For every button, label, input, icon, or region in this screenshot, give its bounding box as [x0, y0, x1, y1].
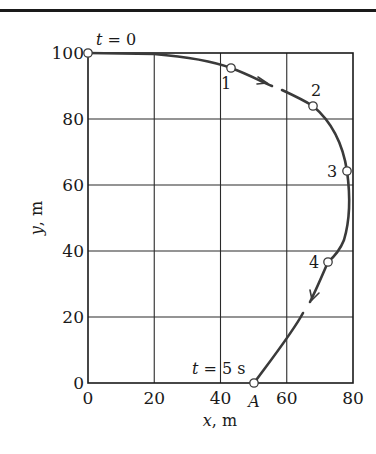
label-point-1: 1 [221, 74, 231, 93]
x-axis-title: x, m [203, 411, 237, 430]
point-start [84, 49, 92, 57]
trajectory-chart: 0 20 40 60 80 100 0 20 40 60 80 x, m y, … [0, 0, 376, 454]
label-point-A: A [246, 392, 260, 411]
y-tick-labels: 0 20 40 60 80 100 [52, 43, 84, 393]
point-A [250, 379, 258, 387]
y-axis-title: y, m [27, 201, 46, 236]
x-tick-60: 60 [276, 388, 298, 408]
point-1 [227, 64, 235, 72]
x-tick-40: 40 [210, 388, 232, 408]
x-tick-80: 80 [342, 388, 364, 408]
label-point-3: 3 [327, 162, 337, 181]
x-tick-0: 0 [83, 388, 94, 408]
y-tick-40: 40 [62, 241, 84, 261]
x-tick-labels: 0 20 40 60 80 [83, 388, 364, 408]
y-tick-20: 20 [62, 307, 84, 327]
point-3 [343, 167, 351, 175]
y-tick-100: 100 [52, 43, 84, 63]
label-t5: t = 5 s [192, 359, 246, 378]
point-2 [309, 102, 317, 110]
label-point-4: 4 [309, 253, 319, 272]
y-tick-80: 80 [62, 109, 84, 129]
x-tick-20: 20 [143, 388, 165, 408]
y-tick-60: 60 [62, 175, 84, 195]
point-4 [324, 258, 332, 266]
label-point-2: 2 [311, 81, 321, 100]
label-t0: t = 0 [96, 30, 136, 49]
